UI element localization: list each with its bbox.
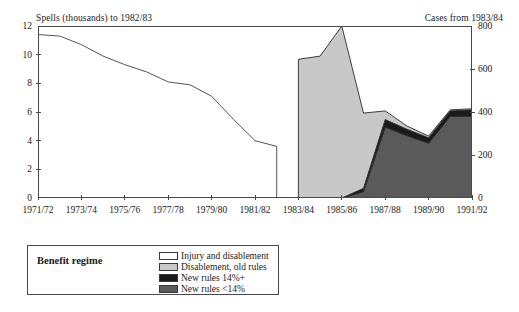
x-axis-tickmark xyxy=(168,195,169,200)
x-axis-tickmark xyxy=(124,195,125,200)
legend-entry-label: New rules <14% xyxy=(181,284,245,295)
legend-swatch-icon xyxy=(159,285,178,293)
right-axis-tick-label: 200 xyxy=(478,150,512,160)
legend-entry-label: Disablement, old rules xyxy=(181,262,267,273)
legend-title: Benefit regime xyxy=(37,255,102,266)
left-axis-tick-label: 6 xyxy=(2,107,32,117)
x-axis-tickmark xyxy=(472,195,473,200)
legend-entry[interactable]: Disablement, old rules xyxy=(159,262,277,273)
x-axis-tick-label: 1977/78 xyxy=(144,205,192,215)
x-axis-tick-label: 1979/80 xyxy=(188,205,236,215)
x-axis-tickmark xyxy=(298,195,299,200)
right-axis-tick-label: 800 xyxy=(478,21,512,31)
x-axis-tick-label: 1987/88 xyxy=(361,205,409,215)
right-axis-tickmark xyxy=(470,155,475,156)
left-axis-tickmark xyxy=(36,112,41,113)
left-axis-tick-label: 2 xyxy=(2,164,32,174)
plot-canvas xyxy=(38,26,472,198)
legend: Benefit regime Injury and disablementDis… xyxy=(27,245,279,295)
x-axis-tickmark xyxy=(341,195,342,200)
chart-figure: Spells (thousands) to 1982/83 Cases from… xyxy=(0,0,519,312)
legend-entry[interactable]: New rules 14%+ xyxy=(159,273,277,284)
x-axis-tickmark xyxy=(211,195,212,200)
right-axis-tick-label: 0 xyxy=(478,193,512,203)
legend-entry-label: New rules 14%+ xyxy=(181,273,245,284)
right-axis-tick-label: 600 xyxy=(478,64,512,74)
left-axis-tickmark xyxy=(36,140,41,141)
x-axis-tick-label: 1971/72 xyxy=(14,205,62,215)
x-axis-tick-label: 1985/86 xyxy=(318,205,366,215)
legend-entries: Injury and disablementDisablement, old r… xyxy=(159,251,277,295)
legend-entry-label: Injury and disablement xyxy=(181,251,269,262)
x-axis-tick-label: 1975/76 xyxy=(101,205,149,215)
x-axis-tickmark xyxy=(385,195,386,200)
line-injury-and-disablement xyxy=(38,35,277,198)
left-axis-tick-label: 12 xyxy=(2,21,32,31)
plot-area xyxy=(38,26,472,198)
left-axis-tick-label: 10 xyxy=(2,50,32,60)
stacked-areas xyxy=(298,26,472,198)
x-axis-tick-label: 1981/82 xyxy=(231,205,279,215)
left-axis-tickmark xyxy=(36,54,41,55)
x-axis-tick-label: 1991/92 xyxy=(448,205,496,215)
left-axis-tickmark xyxy=(36,169,41,170)
left-axis-tick-label: 0 xyxy=(2,193,32,203)
x-axis-tick-label: 1983/84 xyxy=(274,205,322,215)
x-axis-tickmark xyxy=(81,195,82,200)
legend-entry[interactable]: Injury and disablement xyxy=(159,251,277,262)
x-axis-tickmark xyxy=(428,195,429,200)
x-axis-tick-label: 1989/90 xyxy=(405,205,453,215)
x-axis-tickmark xyxy=(255,195,256,200)
legend-swatch-icon xyxy=(159,252,178,260)
legend-swatch-icon xyxy=(159,274,178,282)
right-axis-tickmark xyxy=(470,69,475,70)
right-axis-tick-label: 400 xyxy=(478,107,512,117)
right-axis-tickmark xyxy=(470,112,475,113)
left-axis-title: Spells (thousands) to 1982/83 xyxy=(36,13,152,24)
left-axis-tick-label: 8 xyxy=(2,78,32,88)
left-axis-tick-label: 4 xyxy=(2,136,32,146)
line-series xyxy=(38,35,277,198)
x-axis-tickmark xyxy=(38,195,39,200)
legend-swatch-icon xyxy=(159,263,178,271)
legend-entry[interactable]: New rules <14% xyxy=(159,284,277,295)
x-axis-tick-label: 1973/74 xyxy=(57,205,105,215)
left-axis-tickmark xyxy=(36,83,41,84)
